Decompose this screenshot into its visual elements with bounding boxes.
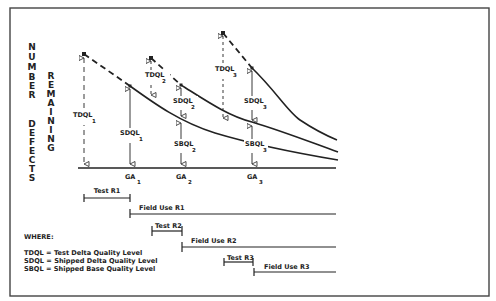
axis-letter: G (47, 143, 54, 153)
label-main: GA (125, 173, 135, 181)
defect-quality-diagram: N U M B E R D E F E C T S R E M A I N I … (0, 0, 496, 301)
axis-letter: R (29, 90, 36, 100)
label-main: SDQL (173, 97, 193, 105)
peak-marker-r3 (221, 31, 225, 35)
timeline-test-r1: Test R1 (84, 187, 130, 202)
label-sub: 3 (233, 72, 237, 78)
label-main: TDQL (73, 111, 93, 119)
axis-letter: S (29, 173, 35, 183)
label-sdql2: SDQL 2 (172, 96, 198, 110)
label-main: GA (176, 173, 186, 181)
label-sub: 1 (139, 136, 143, 142)
label-sub: 2 (162, 78, 166, 84)
test-decline-r3 (223, 33, 252, 68)
label-sbql2: SBQL 2 (173, 139, 199, 153)
timeline-label: Test R3 (227, 254, 254, 262)
field-use-curve-r1 (130, 86, 338, 160)
label-sub: 2 (191, 104, 195, 110)
ship-marker-r2 (180, 84, 183, 87)
legend-title: WHERE: (24, 233, 54, 241)
ga1-label: GA 1 (125, 173, 141, 185)
timeline-field-use-r2: Field Use R2 (182, 237, 336, 252)
ship-marker-r3 (251, 67, 254, 70)
legend: WHERE: TDQL = Test Delta Quality Level S… (24, 233, 158, 273)
label-tdql1: TDQL 1 (72, 110, 98, 125)
label-main: TDQL (215, 65, 235, 73)
ship-marker-r1 (129, 85, 132, 88)
label-sbql3: SBQL 3 (244, 139, 268, 153)
axis-letter: N (28, 42, 36, 52)
label-main: SBQL (174, 140, 193, 148)
ga2-label: GA 2 (176, 173, 192, 185)
peak-marker-r1 (82, 52, 86, 56)
timeline-field-use-r1: Field Use R1 (130, 204, 336, 218)
legend-item: TDQL = Test Delta Quality Level (24, 249, 142, 257)
label-main: GA (247, 173, 257, 181)
label-tdql2: TDQL 2 (144, 70, 170, 85)
timeline-field-use-r3: Field Use R3 (254, 263, 336, 276)
axis-letter: M (28, 62, 37, 72)
timeline-test-r3: Test R3 (224, 254, 254, 266)
timeline-label: Field Use R2 (191, 237, 237, 245)
label-sub: 1 (92, 118, 96, 124)
timeline-label: Test R2 (155, 222, 182, 230)
peak-marker-r2 (149, 56, 153, 60)
legend-item: SDQL = Shipped Delta Quality Level (24, 257, 158, 265)
y-axis-label-remaining: R E M A I N I N G (47, 71, 56, 153)
label-sub: 3 (263, 104, 267, 110)
y-axis-label-number-defects: N U M B E R D E F E C T S (28, 42, 37, 183)
timeline-test-r2: Test R2 (152, 222, 182, 236)
label-sub: 1 (137, 179, 141, 185)
label-sdql1: SDQL 1 (119, 128, 145, 143)
label-main: SDQL (244, 97, 264, 105)
timeline-label: Field Use R1 (139, 204, 185, 212)
label-main: SDQL (120, 129, 140, 137)
label-tdql3: TDQL 3 (214, 64, 240, 79)
label-sub: 3 (263, 147, 267, 153)
label-sub: 2 (188, 179, 192, 185)
label-main: SBQL (245, 140, 264, 148)
test-decline-r1 (84, 54, 130, 86)
label-sdql3: SDQL 3 (243, 96, 269, 110)
legend-item: SBQL = Shipped Base Quality Level (24, 265, 155, 273)
axis-letter: U (28, 52, 35, 62)
label-sub: 2 (192, 147, 196, 153)
label-sub: 3 (259, 179, 263, 185)
timeline-label: Field Use R3 (264, 263, 310, 271)
ga3-label: GA 3 (247, 173, 263, 185)
timeline-label: Test R1 (94, 187, 121, 195)
